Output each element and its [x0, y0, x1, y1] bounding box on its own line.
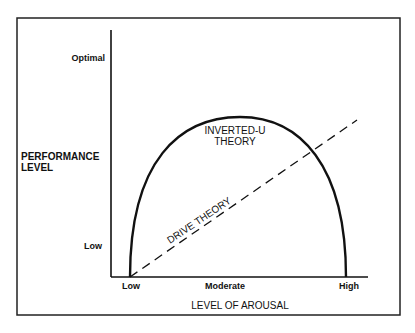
arousal-performance-chart: Optimal Low PERFORMANCE LEVEL Low Modera… — [0, 0, 415, 333]
x-tick-high: High — [339, 281, 359, 291]
y-axis-title-line2: LEVEL — [21, 162, 53, 173]
y-axis-title-line1: PERFORMANCE — [21, 151, 100, 162]
y-tick-low: Low — [84, 241, 103, 251]
x-axis-title: LEVEL OF AROUSAL — [191, 300, 289, 311]
y-tick-optimal: Optimal — [71, 53, 105, 63]
inverted-u-label-line2: THEORY — [214, 136, 256, 147]
drive-theory-label: DRIVE THEORY — [165, 195, 233, 246]
inverted-u-label-line1: INVERTED-U — [205, 125, 266, 136]
x-tick-low: Low — [122, 281, 141, 291]
x-tick-moderate: Moderate — [205, 281, 245, 291]
